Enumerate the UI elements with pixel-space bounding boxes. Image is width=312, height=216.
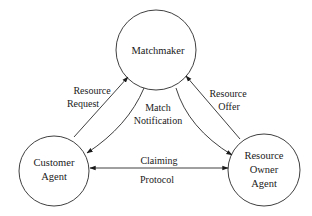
edge-label: Protocol (140, 174, 174, 185)
node-label: Matchmaker (131, 45, 185, 56)
edge-label: Request (67, 98, 99, 109)
edge-label: Offer (218, 101, 240, 112)
node-label: Agent (251, 178, 277, 189)
edge-label: Resource (209, 88, 247, 99)
edge-label: Match (145, 102, 171, 113)
node-resource-owner-agent: Resource Owner Agent (228, 134, 300, 206)
edge-resource-offer: Resource Offer (186, 76, 247, 139)
node-label: Customer (34, 157, 75, 168)
edge-label: Notification (134, 115, 182, 126)
node-label: Owner (250, 164, 279, 175)
edge-label: Resource (73, 85, 111, 96)
edge-resource-request: Resource Request (67, 77, 128, 137)
node-customer-agent: Customer Agent (19, 136, 89, 206)
node-label: Agent (41, 171, 67, 182)
node-label: Resource (244, 150, 283, 161)
edge-claiming-protocol: Claiming Protocol (90, 155, 228, 185)
agent-interaction-diagram: Matchmaker Customer Agent Resource Owner… (0, 0, 312, 216)
node-matchmaker: Matchmaker (116, 10, 196, 90)
edge-label: Claiming (140, 155, 177, 166)
